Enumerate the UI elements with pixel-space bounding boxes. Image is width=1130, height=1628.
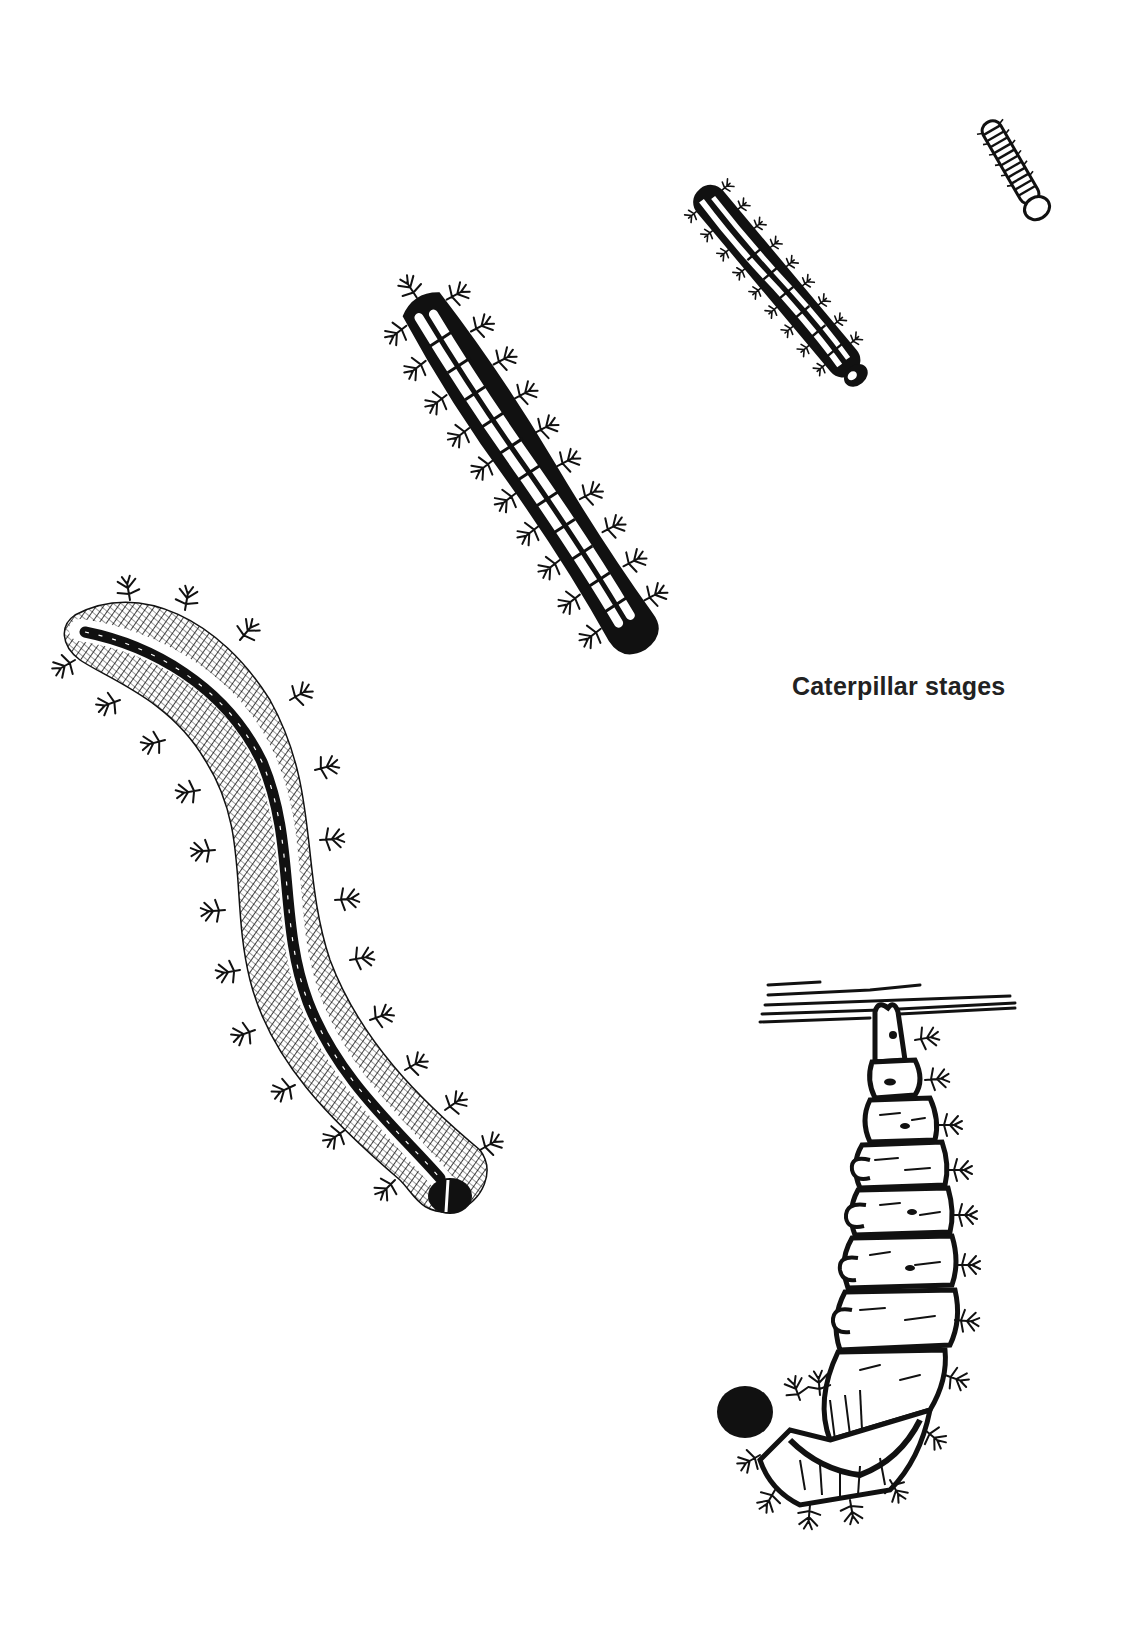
caterpillar-stage-4 (49, 574, 507, 1214)
caterpillar-illustration (0, 0, 1130, 1628)
caterpillar-stage-5 (717, 982, 1015, 1530)
caterpillar-stage-2 (678, 171, 884, 401)
illustration-page: Caterpillar stages (0, 0, 1130, 1628)
caption: Caterpillar stages (792, 672, 1005, 701)
caterpillar-stage-1 (975, 115, 1056, 225)
caterpillar-stage-3 (359, 249, 689, 679)
